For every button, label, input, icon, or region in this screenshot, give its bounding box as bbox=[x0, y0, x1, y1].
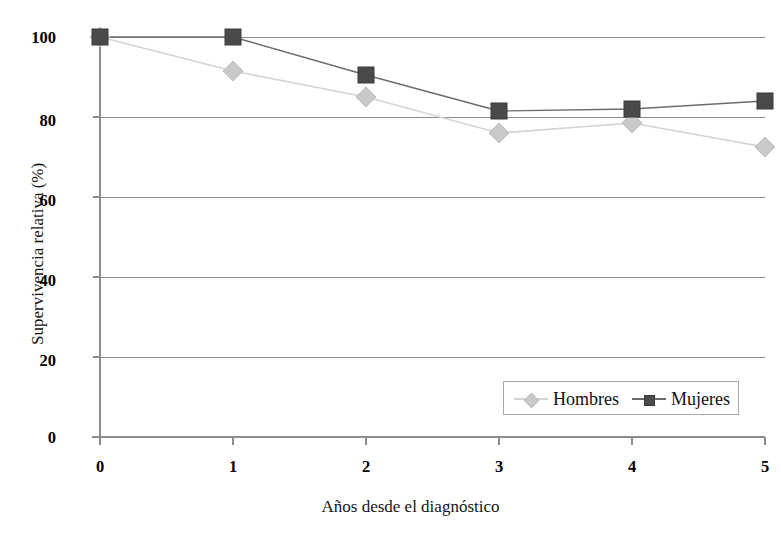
legend-item-hombres: Hombres bbox=[514, 382, 619, 416]
data-point-hombres-x3 bbox=[489, 123, 509, 143]
data-point-mujeres-x2 bbox=[358, 67, 374, 83]
relative-survival-line-chart: Supervivencia relativa (%) Años desde el… bbox=[0, 0, 781, 537]
data-point-hombres-x5 bbox=[755, 137, 775, 157]
data-point-hombres-x2 bbox=[356, 87, 376, 107]
data-series bbox=[90, 27, 775, 157]
gridlines bbox=[100, 37, 765, 437]
data-point-mujeres-x3 bbox=[491, 103, 507, 119]
legend-item-mujeres: Mujeres bbox=[632, 382, 730, 416]
series-line-hombres bbox=[100, 37, 765, 147]
data-point-mujeres-x4 bbox=[624, 101, 640, 117]
data-point-mujeres-x5 bbox=[757, 93, 773, 109]
legend-label-hombres: Hombres bbox=[553, 389, 619, 410]
series-line-mujeres bbox=[100, 37, 765, 111]
plot-area bbox=[0, 0, 781, 537]
legend-label-mujeres: Mujeres bbox=[671, 389, 730, 410]
data-point-mujeres-x0 bbox=[92, 29, 108, 45]
mujeres-marker-icon bbox=[632, 392, 666, 406]
hombres-marker-icon bbox=[514, 392, 548, 406]
chart-legend: Hombres Mujeres bbox=[503, 381, 739, 415]
data-point-mujeres-x1 bbox=[225, 29, 241, 45]
data-point-hombres-x1 bbox=[223, 61, 243, 81]
